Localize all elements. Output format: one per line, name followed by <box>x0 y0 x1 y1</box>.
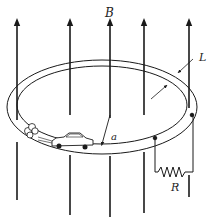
car-icon <box>25 124 94 150</box>
radius-label-a: a <box>111 131 117 142</box>
resistor-circuit <box>153 113 194 177</box>
field-label-B: B <box>104 6 114 20</box>
magnetic-field-lines-lower <box>17 142 189 217</box>
radius-arrow-icon <box>102 115 110 144</box>
outer-rail <box>7 60 197 154</box>
track-width-arrows <box>151 59 193 99</box>
track-width-label-L: L <box>198 51 206 64</box>
conducting-track <box>7 60 197 154</box>
diagram-canvas: B L a R <box>0 0 216 223</box>
inner-rail <box>17 66 187 144</box>
resistor-label-R: R <box>170 181 179 194</box>
